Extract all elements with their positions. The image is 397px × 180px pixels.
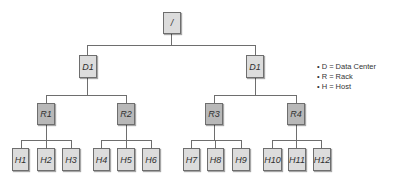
edge-root-bar [87,45,256,46]
host-node-label: H2 [40,155,52,165]
edge-r2-stem [126,125,127,140]
host-node-label: H5 [120,155,132,165]
bullet-icon: • [317,72,320,82]
legend: •D = Data Center •R = Rack •H = Host [317,62,376,92]
host-node-label: H4 [96,155,108,165]
legend-item-text: D = Data Center [322,62,376,71]
host-node-h8: H8 [207,148,224,171]
edge-to-r4 [296,95,297,103]
host-node-h1: H1 [12,148,29,171]
host-node-h6: H6 [142,148,160,171]
edge-r4-stem [296,125,297,140]
datacenter-node-label: D1 [249,62,261,72]
edge-to-h4 [101,140,102,148]
root-node: / [163,12,181,34]
edge-to-h6 [151,140,152,148]
edge-r1-stem [46,125,47,140]
host-node-label: H9 [235,155,247,165]
edge-to-h3 [71,140,72,148]
legend-item-rack: •R = Rack [317,72,376,82]
legend-item-datacenter: •D = Data Center [317,62,376,72]
host-node-h10: H10 [263,148,282,171]
host-node-label: H12 [314,155,331,165]
edge-root-stem [171,34,172,45]
rack-node-label: R1 [40,109,52,119]
host-node-label: H10 [264,155,281,165]
host-node-label: H7 [186,155,198,165]
host-node-h9: H9 [232,148,250,171]
host-node-h7: H7 [183,148,200,171]
edge-d1-right-stem [255,78,256,95]
edge-to-h5 [126,140,127,148]
rack-node-label: R3 [208,109,220,119]
rack-node-r4: R4 [287,103,305,125]
datacenter-node-label: D1 [82,62,94,72]
rack-node-label: R4 [290,109,302,119]
rack-node-label: R2 [120,109,132,119]
host-node-label: H3 [65,155,77,165]
host-node-h12: H12 [313,148,331,171]
host-node-h11: H11 [288,148,306,171]
host-node-h2: H2 [37,148,55,171]
legend-item-text: H = Host [322,82,351,91]
host-node-h3: H3 [62,148,80,171]
edge-d1-left-bar [46,95,127,96]
root-node-label: / [171,18,174,28]
bullet-icon: • [317,62,320,72]
edge-to-r3 [214,95,215,103]
edge-to-r2 [126,95,127,103]
edge-to-d1-left [87,45,88,55]
rack-node-r2: R2 [117,103,135,125]
edge-to-h10 [272,140,273,148]
datacenter-node-left: D1 [79,55,97,78]
host-node-h4: H4 [93,148,110,171]
host-node-label: H6 [145,155,157,165]
rack-node-r3: R3 [205,103,223,125]
edge-d1-right-bar [214,95,297,96]
edge-to-r1 [46,95,47,103]
host-node-h5: H5 [117,148,135,171]
edge-to-d1-right [255,45,256,55]
edge-to-h9 [241,140,242,148]
edge-r4-bar [272,140,322,141]
edge-to-h8 [215,140,216,148]
host-node-label: H8 [210,155,222,165]
edge-to-h11 [296,140,297,148]
edge-to-h7 [191,140,192,148]
edge-to-h12 [321,140,322,148]
legend-item-host: •H = Host [317,82,376,92]
edge-r3-stem [214,125,215,140]
rack-node-r1: R1 [37,103,55,125]
edge-to-h1 [21,140,22,148]
edge-d1-left-stem [87,78,88,95]
legend-item-text: R = Rack [322,72,353,81]
topology-diagram: / D1 D1 R1 R2 R3 R4 H1 H2 H3 H4 H5 H6 H7… [0,0,397,180]
edge-to-h2 [46,140,47,148]
host-node-label: H1 [15,155,27,165]
datacenter-node-right: D1 [246,55,264,78]
bullet-icon: • [317,82,320,92]
host-node-label: H11 [289,155,305,165]
edge-r3-bar [191,140,242,141]
